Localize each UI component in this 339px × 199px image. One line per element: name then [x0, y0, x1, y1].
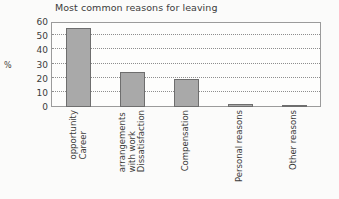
y-axis-tick-label: 30	[37, 60, 48, 70]
x-axis-tick-label-line: arrangements	[118, 110, 128, 172]
y-axis-tick-label: 50	[37, 31, 48, 41]
x-axis-tick-labels: CareeropportunityDissatisfactionwith wor…	[51, 110, 321, 199]
x-axis-tick-label-line: Other reasons	[289, 110, 299, 170]
bar	[174, 79, 199, 107]
x-axis-tick-label: Dissatisfactionwith workarrangements	[118, 110, 147, 172]
x-axis-tick-label: Careeropportunity	[69, 110, 88, 160]
x-axis-tick-label-line: Dissatisfaction	[137, 110, 147, 172]
y-axis-tick-label: 40	[37, 45, 48, 55]
bar	[228, 104, 253, 107]
x-axis-tick-label: Compensation	[181, 110, 191, 171]
y-axis-tick-labels: 0102030405060	[18, 22, 48, 107]
x-axis-tick-label: Other reasons	[289, 110, 299, 170]
y-axis-tick-label: 20	[37, 74, 48, 84]
bar	[66, 28, 91, 107]
x-axis-tick-label-line: Compensation	[181, 110, 191, 171]
bar	[120, 72, 145, 107]
y-axis-title: %	[4, 60, 12, 69]
y-axis-tick-label: 10	[37, 88, 48, 98]
y-axis-tick-label: 0	[42, 102, 48, 112]
bar	[282, 105, 307, 107]
x-axis-tick-label-line: Personal reasons	[235, 110, 245, 182]
x-axis-tick-label-line: opportunity	[69, 110, 79, 160]
chart-title: Most common reasons for leaving	[55, 2, 217, 13]
x-axis-tick-label-line: Career	[78, 110, 88, 160]
chart-figure: Most common reasons for leaving % 010203…	[0, 0, 339, 199]
x-axis-tick-label: Personal reasons	[235, 110, 245, 182]
bar-series	[51, 22, 321, 107]
y-axis-tick-label: 60	[37, 17, 48, 27]
